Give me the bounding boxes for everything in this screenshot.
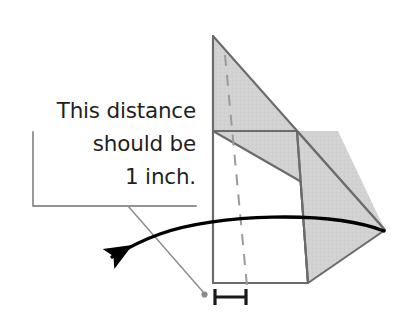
folded-paper-wedge [213, 36, 385, 286]
annotation-line-1: This distance [56, 98, 196, 123]
callout-leader [128, 206, 208, 298]
folded-paper-diagram: This distance should be 1 inch. [0, 0, 404, 321]
annotation-line-2: should be [93, 131, 196, 156]
leader-endpoint-dot [201, 291, 207, 297]
measure-bracket [214, 289, 247, 305]
diagram-canvas: This distance should be 1 inch. [0, 0, 404, 321]
annotation-text-block: This distance should be 1 inch. [56, 98, 196, 189]
annotation-line-3: 1 inch. [125, 164, 196, 189]
leader-line [128, 206, 204, 293]
